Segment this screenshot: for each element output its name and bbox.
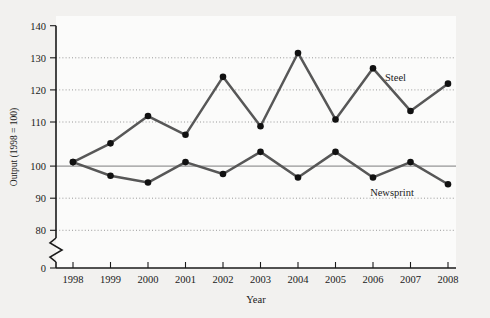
y-tick-label: 110	[31, 117, 46, 128]
data-point-newsprint-2003	[257, 149, 264, 156]
data-point-newsprint-1998	[70, 159, 77, 166]
y-axis-label: Output (1998 = 100)	[9, 108, 20, 186]
y-tick-label: 140	[30, 21, 46, 32]
series-label-newsprint: Newsprint	[370, 187, 414, 198]
x-tick-label: 2003	[250, 274, 271, 285]
data-point-steel-1999	[107, 140, 114, 147]
line-chart: 140 130 120 110 100 90 80 0 Output (1998…	[0, 0, 490, 318]
y-tick-label: 100	[30, 161, 46, 172]
data-point-newsprint-2005	[332, 149, 339, 156]
y-tick-labels: 140 130 120 110 100 90 80 0	[30, 21, 46, 274]
data-point-steel-2000	[145, 113, 152, 120]
x-tick-label: 2004	[288, 274, 310, 285]
x-tick-label: 2001	[175, 274, 196, 285]
x-tick-label: 2005	[325, 274, 346, 285]
data-point-steel-2005	[332, 116, 339, 123]
series-label-steel: Steel	[385, 72, 406, 83]
data-point-steel-2004	[295, 50, 302, 57]
data-point-steel-2003	[257, 123, 264, 130]
data-point-newsprint-2002	[220, 171, 227, 178]
data-point-newsprint-2001	[182, 159, 189, 166]
x-tick-label: 1998	[63, 274, 84, 285]
y-tick-label: 120	[30, 85, 46, 96]
data-point-newsprint-2004	[295, 174, 302, 181]
data-point-steel-2007	[407, 108, 414, 115]
data-point-steel-2006	[370, 65, 377, 72]
x-tick-label: 2008	[438, 274, 459, 285]
data-point-newsprint-2000	[145, 179, 152, 186]
y-tick-label: 130	[30, 53, 46, 64]
data-point-steel-2002	[220, 74, 227, 81]
data-point-newsprint-2006	[370, 174, 377, 181]
data-point-steel-2001	[182, 132, 189, 139]
x-tick-labels: 1998 1999 2000 2001 2002 2003 2004 2005 …	[63, 274, 459, 285]
x-tick-label: 1999	[100, 274, 121, 285]
data-point-newsprint-2007	[407, 159, 414, 166]
x-tick-label: 2000	[138, 274, 159, 285]
y-tick-marks	[50, 26, 56, 268]
y-tick-label: 80	[36, 225, 47, 236]
x-tick-label: 2007	[400, 274, 421, 285]
y-tick-label: 90	[36, 193, 47, 204]
data-point-newsprint-2008	[445, 181, 452, 188]
y-tick-label: 0	[41, 263, 46, 274]
x-tick-label: 2002	[213, 274, 234, 285]
x-tick-label: 2006	[363, 274, 384, 285]
data-point-steel-2008	[445, 80, 452, 87]
x-axis-label: Year	[246, 294, 266, 305]
data-point-newsprint-1999	[107, 172, 114, 179]
